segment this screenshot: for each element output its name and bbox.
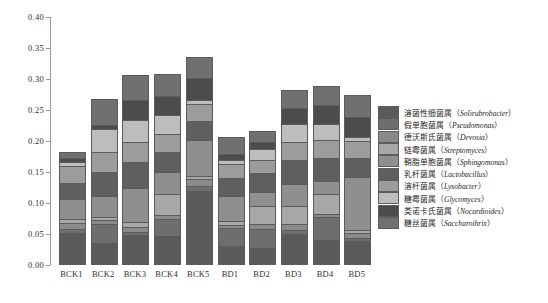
bar-segment[interactable] xyxy=(186,104,213,121)
bar-segment[interactable] xyxy=(344,117,371,137)
bar-segment[interactable] xyxy=(313,181,340,194)
legend-swatch xyxy=(378,217,399,229)
legend-label: 德沃斯氏菌属（Devosia） xyxy=(404,131,493,142)
bar-segment[interactable] xyxy=(344,141,371,158)
legend-item[interactable]: 溶菌性细菌属（Solirubrobacter） xyxy=(378,106,516,118)
bar-stack[interactable] xyxy=(281,90,308,265)
bar-segment[interactable] xyxy=(313,124,340,140)
bar-segment[interactable] xyxy=(313,86,340,105)
legend-item[interactable]: 鞘脂单胞菌属（Sphingomonas） xyxy=(378,155,516,167)
bar-segment[interactable] xyxy=(59,233,86,265)
bar-segment[interactable] xyxy=(218,246,245,265)
bar-segment[interactable] xyxy=(91,196,118,217)
bar-stack[interactable] xyxy=(186,57,213,265)
bar-segment[interactable] xyxy=(91,224,118,243)
y-tick-label: 0.20 xyxy=(28,136,44,146)
bar-segment[interactable] xyxy=(281,124,308,143)
bar-segment[interactable] xyxy=(122,75,149,100)
bar-segment[interactable] xyxy=(186,121,213,140)
bar-stack[interactable] xyxy=(344,95,371,265)
legend-item[interactable]: 糖霉菌属（Glycomyces） xyxy=(378,192,516,204)
bar-segment[interactable] xyxy=(154,172,181,194)
bar-segment[interactable] xyxy=(313,194,340,214)
bar-stack[interactable] xyxy=(249,131,276,265)
bar-segment[interactable] xyxy=(218,196,245,221)
bar-segment[interactable] xyxy=(218,164,245,178)
bar-segment[interactable] xyxy=(154,194,181,215)
bar-segment[interactable] xyxy=(249,173,276,192)
bar-segment[interactable] xyxy=(313,217,340,240)
bar-segment[interactable] xyxy=(249,229,276,248)
bar-segment[interactable] xyxy=(249,206,276,225)
bar-segment[interactable] xyxy=(154,236,181,265)
bar-segment[interactable] xyxy=(122,162,149,188)
bar-segment[interactable] xyxy=(59,183,86,199)
bar-segment[interactable] xyxy=(249,131,276,142)
bar-stack[interactable] xyxy=(59,152,86,265)
bar-segment[interactable] xyxy=(313,105,340,124)
bar-segment[interactable] xyxy=(344,177,371,230)
bar-segment[interactable] xyxy=(249,149,276,160)
bar-segment[interactable] xyxy=(91,129,118,153)
bar-segment[interactable] xyxy=(122,188,149,223)
legend-item[interactable]: 假单胞菌属（Pseudomonas） xyxy=(378,118,516,130)
bar-segment[interactable] xyxy=(91,99,118,125)
bar-segment[interactable] xyxy=(59,199,86,219)
bar-segment[interactable] xyxy=(281,160,308,185)
bar-segment[interactable] xyxy=(154,74,181,96)
bar-segment[interactable] xyxy=(186,191,213,265)
bar-segment[interactable] xyxy=(281,206,308,225)
bar-segment[interactable] xyxy=(281,108,308,124)
y-tick xyxy=(46,203,50,204)
legend-label: 链霉菌属（Streptomyces） xyxy=(404,144,492,155)
bar-segment[interactable] xyxy=(91,152,118,172)
bar-segment[interactable] xyxy=(218,137,245,154)
bar-segment[interactable] xyxy=(249,160,276,174)
bar-stack[interactable] xyxy=(91,99,118,265)
bar-segment[interactable] xyxy=(249,192,276,206)
bar-segment[interactable] xyxy=(154,152,181,172)
bar-segment[interactable] xyxy=(91,243,118,265)
bar-segment[interactable] xyxy=(122,100,149,120)
bar-segment[interactable] xyxy=(186,57,213,79)
bar-stack[interactable] xyxy=(122,75,149,265)
legend-item[interactable]: 类诺卡氏菌属（Nocardioides） xyxy=(378,204,516,216)
legend-item[interactable]: 链霉菌属（Streptomyces） xyxy=(378,143,516,155)
legend-item[interactable]: 乳杆菌属（Lactobacillus） xyxy=(378,167,516,179)
bar-segment[interactable] xyxy=(91,172,118,196)
bar-segment[interactable] xyxy=(59,166,86,183)
legend-swatch xyxy=(378,192,399,204)
bar-segment[interactable] xyxy=(313,140,340,159)
bar-segment[interactable] xyxy=(186,78,213,100)
legend-item[interactable]: 糖丝菌属（Saccharothrix） xyxy=(378,217,516,229)
bar-segment[interactable] xyxy=(313,240,340,265)
bar-segment[interactable] xyxy=(344,158,371,177)
legend-item[interactable]: 德沃斯氏菌属（Devosia） xyxy=(378,131,516,143)
bar-segment[interactable] xyxy=(281,234,308,265)
bar-segment[interactable] xyxy=(281,142,308,159)
bar-segment[interactable] xyxy=(154,96,181,115)
bar-stack[interactable] xyxy=(218,137,245,265)
y-tick xyxy=(46,234,50,235)
bar-segment[interactable] xyxy=(154,219,181,237)
bar-segment[interactable] xyxy=(281,184,308,205)
bar-segment[interactable] xyxy=(249,248,276,265)
bar-segment[interactable] xyxy=(281,90,308,109)
bars-group xyxy=(51,17,370,265)
bar-segment[interactable] xyxy=(122,142,149,161)
legend-swatch xyxy=(378,118,399,130)
bar-segment[interactable] xyxy=(122,235,149,265)
bar-segment[interactable] xyxy=(218,228,245,246)
legend-item[interactable]: 溶杆菌属（Lysobacter） xyxy=(378,180,516,192)
bar-segment[interactable] xyxy=(122,120,149,142)
bar-segment[interactable] xyxy=(218,178,245,197)
bar-stack[interactable] xyxy=(154,74,181,265)
bar-segment[interactable] xyxy=(186,140,213,177)
bar-stack[interactable] xyxy=(313,86,340,265)
bar-segment[interactable] xyxy=(313,158,340,180)
bar-segment[interactable] xyxy=(344,241,371,265)
bar-segment[interactable] xyxy=(154,134,181,152)
bar-segment[interactable] xyxy=(344,95,371,117)
bar-segment[interactable] xyxy=(154,115,181,134)
legend-swatch xyxy=(378,180,399,192)
